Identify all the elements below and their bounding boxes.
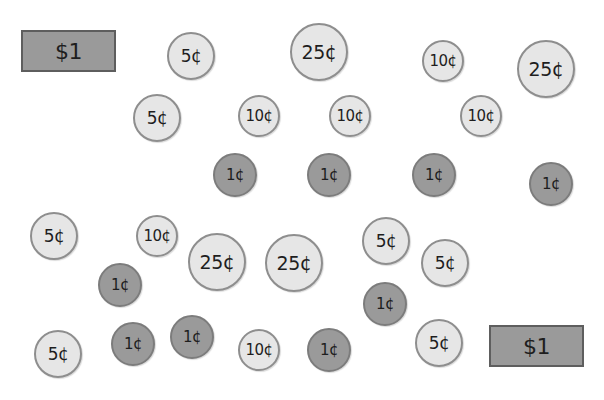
coin-1-cent[interactable]: 1¢ [213,153,257,197]
coin-5-cent[interactable]: 5¢ [167,32,215,80]
money-label: 5¢ [48,344,69,364]
money-label: 1¢ [542,175,560,193]
coin-10-cent[interactable]: 10¢ [238,329,280,371]
coin-1-cent[interactable]: 1¢ [363,282,407,326]
money-label: 5¢ [376,231,397,251]
money-label: 25¢ [529,58,564,80]
coin-5-cent[interactable]: 5¢ [30,212,78,260]
coin-1-cent[interactable]: 1¢ [170,315,214,359]
money-label: 1¢ [320,341,338,359]
coin-5-cent[interactable]: 5¢ [34,330,82,378]
money-label: 10¢ [245,107,272,125]
money-label: 10¢ [467,107,494,125]
coin-1-cent[interactable]: 1¢ [529,162,573,206]
coin-10-cent[interactable]: 10¢ [460,95,502,137]
coin-5-cent[interactable]: 5¢ [362,217,410,265]
coin-1-cent[interactable]: 1¢ [307,328,351,372]
money-label: 10¢ [336,107,363,125]
money-label: 25¢ [277,252,312,274]
money-label: $1 [523,334,550,359]
coin-10-cent[interactable]: 10¢ [422,40,464,82]
coin-25-cent[interactable]: 25¢ [517,40,575,98]
dollar-bill[interactable]: $1 [21,30,116,72]
money-label: 1¢ [320,166,338,184]
coin-1-cent[interactable]: 1¢ [307,153,351,197]
money-label: 1¢ [183,328,201,346]
coin-5-cent[interactable]: 5¢ [133,94,181,142]
coin-1-cent[interactable]: 1¢ [111,322,155,366]
money-label: 1¢ [124,335,142,353]
coin-10-cent[interactable]: 10¢ [136,215,178,257]
money-label: 10¢ [143,227,170,245]
money-label: 1¢ [376,295,394,313]
money-label: 5¢ [429,333,450,353]
coin-25-cent[interactable]: 25¢ [290,23,348,81]
money-label: 25¢ [200,251,235,273]
money-label: 5¢ [181,46,202,66]
coin-25-cent[interactable]: 25¢ [188,233,246,291]
money-label: 10¢ [245,341,272,359]
coin-1-cent[interactable]: 1¢ [412,153,456,197]
money-label: 25¢ [302,41,337,63]
money-label: 10¢ [429,52,456,70]
money-label: $1 [55,39,82,64]
coin-25-cent[interactable]: 25¢ [265,234,323,292]
money-label: 5¢ [435,253,456,273]
coin-10-cent[interactable]: 10¢ [329,95,371,137]
coin-5-cent[interactable]: 5¢ [421,239,469,287]
money-label: 5¢ [44,226,65,246]
money-label: 1¢ [226,166,244,184]
dollar-bill[interactable]: $1 [489,325,584,367]
coin-1-cent[interactable]: 1¢ [98,263,142,307]
money-label: 5¢ [147,108,168,128]
coin-5-cent[interactable]: 5¢ [415,319,463,367]
coin-10-cent[interactable]: 10¢ [238,95,280,137]
money-label: 1¢ [111,276,129,294]
money-label: 1¢ [425,166,443,184]
